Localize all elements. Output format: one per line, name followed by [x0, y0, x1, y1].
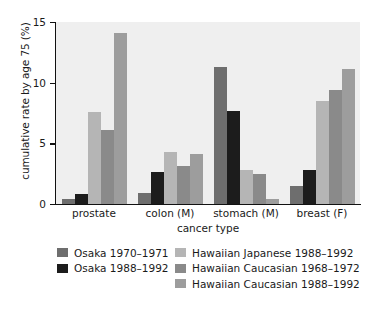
legend-label: Hawaiian Caucasian 1968–1972: [192, 262, 360, 274]
y-axis-tick: [50, 204, 56, 205]
bar: [164, 152, 177, 204]
legend-label: Hawaiian Caucasian 1988–1992: [192, 278, 360, 290]
plot-area: [56, 22, 360, 204]
legend-column-left: Osaka 1970–1971Osaka 1988–1992: [57, 245, 169, 276]
bar: [227, 111, 240, 204]
bar-group: [138, 22, 203, 204]
legend-swatch: [175, 248, 186, 257]
y-axis-tick-label: 10: [6, 78, 46, 89]
legend-swatch: [175, 264, 186, 273]
legend-label: Osaka 1988–1992: [74, 262, 169, 274]
bar: [138, 193, 151, 204]
bar-group: [62, 22, 127, 204]
legend-swatch: [57, 264, 68, 273]
bar: [290, 186, 303, 204]
legend-label: Osaka 1970–1971: [74, 247, 169, 259]
y-axis-tick: [50, 143, 56, 144]
legend-swatch: [57, 248, 68, 257]
bar: [75, 194, 88, 204]
y-axis-title: cumulative rate by age 75 (%): [19, 6, 31, 196]
y-axis-tick-label: 5: [6, 138, 46, 149]
legend-swatch: [175, 279, 186, 288]
legend-item: Hawaiian Caucasian 1968–1972: [175, 261, 360, 277]
bar-group: [214, 22, 279, 204]
x-axis-line: [55, 204, 361, 205]
bar: [342, 69, 355, 204]
bar: [316, 101, 329, 204]
bars-container: [56, 22, 360, 204]
legend-item: Hawaiian Caucasian 1988–1992: [175, 276, 360, 292]
bar-group: [290, 22, 355, 204]
bar: [177, 166, 190, 204]
y-axis-tick: [50, 22, 56, 23]
y-axis-tick-label: 0: [6, 199, 46, 210]
x-axis-tick-label: breast (F): [277, 207, 367, 219]
bar: [240, 170, 253, 204]
y-axis-tick-label: 15: [6, 17, 46, 28]
legend-label: Hawaiian Japanese 1988–1992: [192, 247, 353, 259]
bar: [190, 154, 203, 204]
bar: [253, 174, 266, 204]
bar: [151, 172, 164, 204]
bar-chart-figure: cumulative rate by age 75 (%) 051015 pro…: [0, 0, 382, 309]
bar: [114, 33, 127, 204]
y-axis-line: [55, 22, 56, 205]
bar: [101, 130, 114, 204]
y-axis-tick: [50, 83, 56, 84]
legend-item: Hawaiian Japanese 1988–1992: [175, 245, 360, 261]
x-axis-title: cancer type: [56, 222, 360, 234]
legend-item: Osaka 1988–1992: [57, 261, 169, 277]
bar: [214, 67, 227, 204]
legend-item: Osaka 1970–1971: [57, 245, 169, 261]
bar: [88, 112, 101, 204]
bar: [303, 170, 316, 204]
bar: [329, 90, 342, 204]
legend-column-right: Hawaiian Japanese 1988–1992Hawaiian Cauc…: [175, 245, 360, 292]
